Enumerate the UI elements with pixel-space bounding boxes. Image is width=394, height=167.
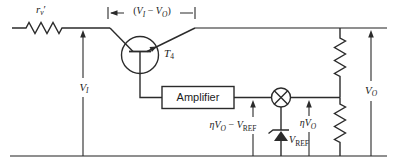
zener-ref-label: VREF xyxy=(288,135,310,147)
feedback-voltage-label: ηVO xyxy=(299,118,318,130)
zener-anode-triangle xyxy=(274,131,288,141)
zener-cathode-bar xyxy=(269,130,290,134)
measurement-lines xyxy=(83,7,371,156)
amplifier-label: Amplifier xyxy=(176,92,221,103)
eta-arrowhead xyxy=(306,100,312,108)
feedback-minus-ref-label: ηVO − VREF xyxy=(208,120,257,132)
eta-minus-ref-arrowhead xyxy=(250,100,256,108)
series-resistor xyxy=(12,23,110,34)
output-voltage-label: VO xyxy=(364,85,378,98)
input-voltage-label: VI xyxy=(78,82,89,95)
series-resistor-label: rv′ xyxy=(35,4,47,17)
collector-emitter-drop-label: (VI − VO) xyxy=(132,6,171,18)
vi-arrowhead xyxy=(80,30,86,38)
series-voltage-regulator-diagram: rv′ (VI − VO) T4 VI Amplifier ηVO − VREF… xyxy=(0,0,394,167)
divider-top-resistor xyxy=(335,28,346,98)
circuit-drawing xyxy=(0,0,394,167)
dimension-left-arrowhead xyxy=(110,10,118,15)
divider-bottom-resistor xyxy=(335,98,346,157)
vo-arrowhead xyxy=(368,30,374,38)
multiplier-cross xyxy=(274,91,287,104)
transistor-label: T4 xyxy=(163,48,175,61)
